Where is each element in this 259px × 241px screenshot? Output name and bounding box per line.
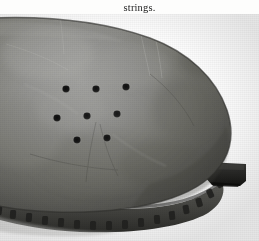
artifact-photograph <box>0 14 259 241</box>
hole-4 <box>53 114 62 122</box>
hole-5 <box>83 112 92 120</box>
artifact-figure <box>0 14 259 241</box>
caption-text: strings. <box>0 1 259 15</box>
hole-2 <box>92 85 101 93</box>
hole-6 <box>113 110 122 118</box>
scanned-page: strings. <box>0 0 259 241</box>
hole-1 <box>62 85 71 93</box>
hole-7 <box>73 136 82 144</box>
hole-3 <box>122 83 131 91</box>
hole-8 <box>103 134 112 142</box>
